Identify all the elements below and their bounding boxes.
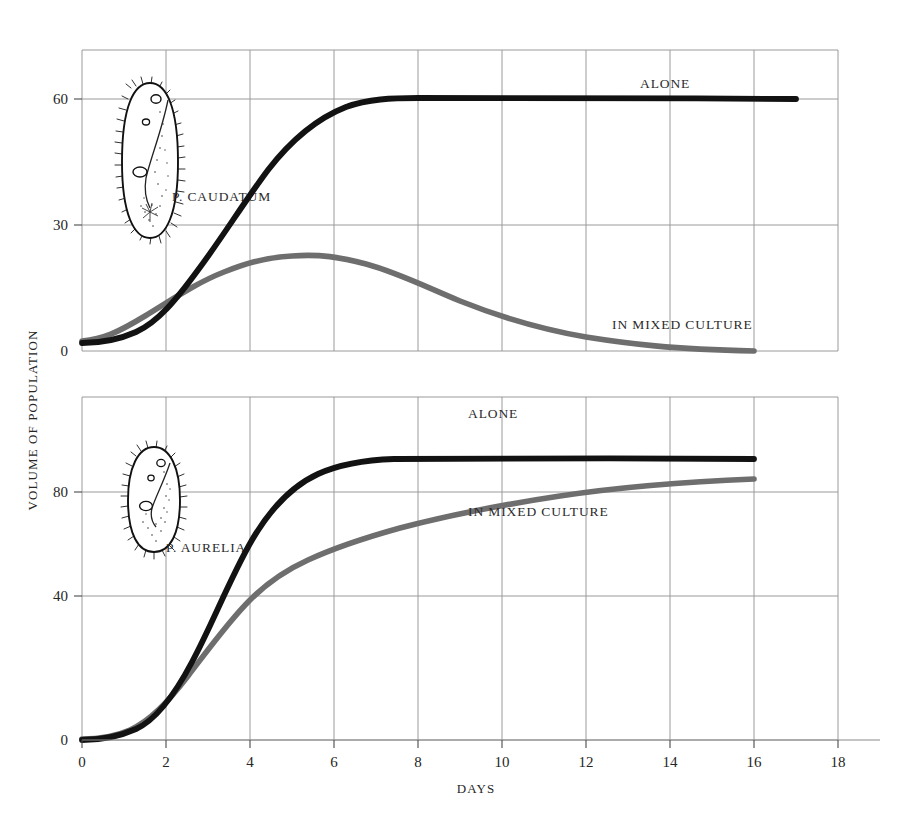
top-label-alone: ALONE	[640, 76, 690, 91]
x-tick-16: 16	[747, 754, 763, 770]
top-y-tick-30: 30	[53, 217, 68, 233]
x-tick-14: 14	[663, 754, 679, 770]
x-tick-12: 12	[579, 754, 594, 770]
x-tick-18: 18	[831, 754, 846, 770]
bottom-label-alone: ALONE	[468, 406, 518, 421]
top-y-tick-60: 60	[53, 91, 68, 107]
x-tick-0: 0	[78, 754, 86, 770]
p-caudatum-macronucleus	[133, 167, 147, 177]
bottom-y-tick-0: 0	[61, 732, 69, 748]
bottom-label-in-mixed-culture: IN MIXED CULTURE	[468, 504, 609, 519]
p-caudatum-vacuole-mid	[142, 119, 149, 125]
figure-svg: 60 30 0	[0, 0, 921, 825]
x-tick-10: 10	[495, 754, 510, 770]
p-caudatum-vacuole-anterior	[151, 95, 161, 103]
x-tick-2: 2	[162, 754, 170, 770]
x-tick-4: 4	[246, 754, 254, 770]
bottom-y-tick-40: 40	[53, 588, 68, 604]
top-species-label: P. CAUDATUM	[172, 189, 271, 204]
x-axis-title: DAYS	[457, 781, 496, 796]
x-tick-6: 6	[330, 754, 338, 770]
p-aurelia-body-outline	[128, 447, 180, 552]
bottom-species-label: P. AURELIA	[166, 540, 246, 555]
bottom-y-tick-80: 80	[53, 484, 68, 500]
x-tick-8: 8	[414, 754, 422, 770]
p-aurelia-macronucleus	[140, 501, 153, 510]
gause-competition-figure: 60 30 0	[0, 0, 921, 825]
y-axis-title: VOLUME OF POPULATION	[25, 330, 40, 511]
top-label-in-mixed-culture: IN MIXED CULTURE	[612, 317, 753, 332]
p-aurelia-vacuole-mid	[148, 475, 154, 481]
top-y-tick-0: 0	[61, 343, 69, 359]
p-aurelia-vacuole-anterior	[157, 459, 165, 466]
